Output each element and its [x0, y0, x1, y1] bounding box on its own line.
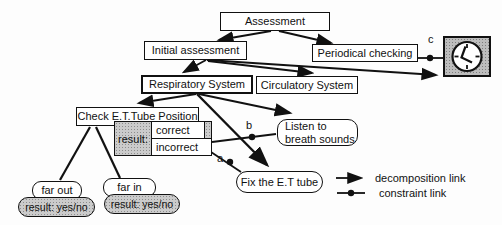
clock-face — [445, 38, 489, 75]
node-circulatory-system: Circulatory System — [256, 76, 358, 94]
legend-constraint-label: constraint link — [379, 188, 446, 199]
node-far-in-result: result: yes/no — [104, 194, 180, 214]
listen-line2: breath sounds — [285, 133, 355, 146]
constraint-dot-b — [249, 134, 255, 140]
constraint-label-a: a — [217, 153, 223, 164]
edge-assessment-initial — [219, 31, 271, 40]
result-cell-incorrect: incorrect — [151, 138, 212, 156]
edge-initial-respiratory — [184, 60, 206, 72]
edge-constraint-a — [211, 152, 241, 172]
legend-decomposition-label: decomposition link — [375, 173, 466, 184]
clock-icon — [443, 36, 491, 77]
node-fix-et-tube: Fix the E.T tube — [236, 171, 323, 193]
constraint-label-c: c — [428, 34, 434, 45]
diagram-canvas: Assessment Initial assessment Periodical… — [0, 0, 502, 225]
edge-assessment-periodical — [279, 31, 331, 43]
constraint-dot-c — [427, 55, 433, 61]
listen-line1: Listen to — [285, 120, 327, 133]
constraint-line-dot-icon — [348, 190, 354, 196]
node-far-out-result: result: yes/no — [18, 197, 95, 217]
node-listen-breath-sounds: Listen to breath sounds — [277, 119, 358, 146]
node-periodical-checking: Periodical checking — [312, 44, 418, 62]
result-label: result: — [115, 122, 151, 155]
node-assessment: Assessment — [220, 12, 330, 31]
constraint-dot-a — [227, 159, 233, 165]
constraint-label-b: b — [246, 120, 252, 131]
result-cell-correct: correct — [151, 121, 205, 139]
edge-initial-clock — [207, 60, 436, 75]
node-initial-assessment: Initial assessment — [144, 41, 247, 60]
edge-check-farout — [60, 127, 90, 180]
edge-respiratory-check — [139, 94, 196, 103]
node-respiratory-system: Respiratory System — [141, 75, 253, 94]
